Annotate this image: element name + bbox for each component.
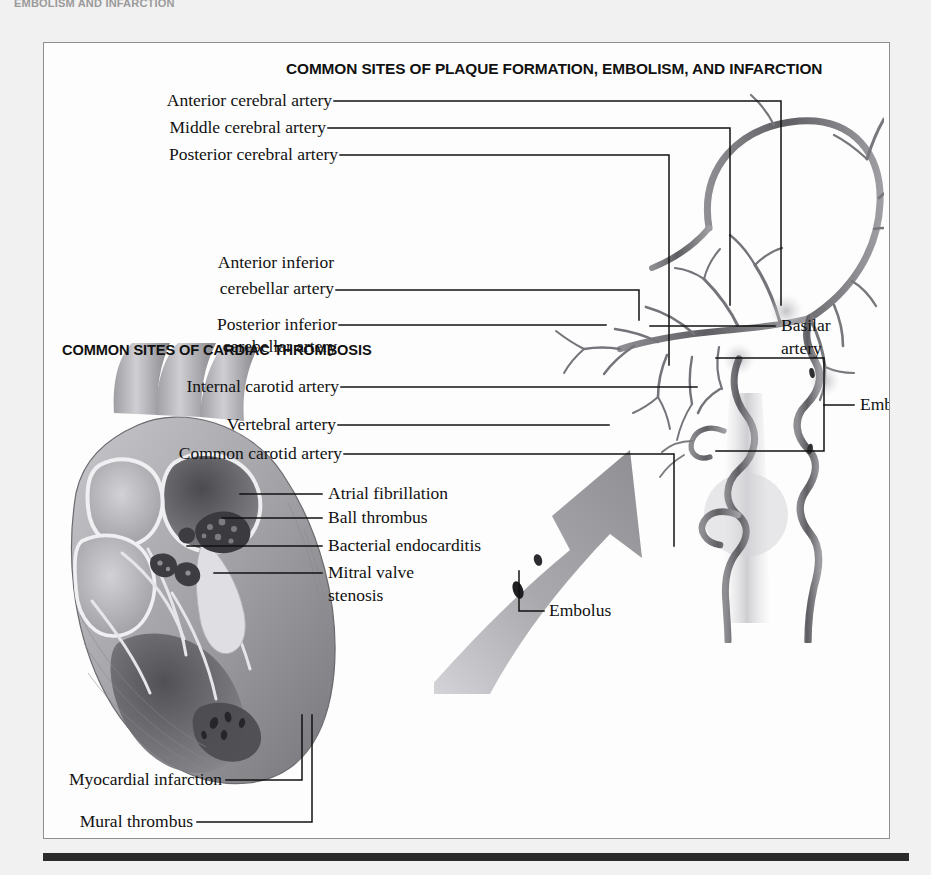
- label-anterior-inferior-cerebellar-line2: cerebellar artery: [104, 279, 334, 298]
- label-anterior-cerebral-artery: Anterior cerebral artery: [74, 91, 332, 110]
- label-mural-thrombus: Mural thrombus: [44, 812, 193, 831]
- label-atrial-fibrillation: Atrial fibrillation: [328, 484, 448, 503]
- label-vertebral-artery: Vertebral artery: [104, 415, 336, 434]
- label-mitral-valve-line1: Mitral valve: [328, 563, 414, 582]
- label-ball-thrombus: Ball thrombus: [328, 508, 428, 527]
- label-myocardial-infarction: Myocardial infarction: [44, 770, 222, 789]
- leader-aica: [336, 290, 639, 320]
- figure-frame: COMMON SITES OF PLAQUE FORMATION, EMBOLI…: [43, 42, 890, 839]
- leader-posterior-cerebral: [340, 155, 669, 365]
- label-embolus: Embolus: [549, 601, 611, 620]
- label-mitral-valve-line2: stenosis: [328, 586, 383, 605]
- label-internal-carotid-artery: Internal carotid artery: [104, 377, 339, 396]
- label-anterior-inferior-cerebellar-line1: Anterior inferior: [104, 253, 334, 272]
- bottom-rule: [43, 853, 909, 861]
- figure-canvas: COMMON SITES OF PLAQUE FORMATION, EMBOLI…: [44, 43, 889, 838]
- running-head: EMBOLISM AND INFARCTION: [14, 0, 175, 7]
- label-middle-cerebral-artery: Middle cerebral artery: [74, 118, 326, 137]
- label-posterior-inferior-cerebellar-line1: Posterior inferior: [94, 315, 337, 334]
- label-posterior-inferior-cerebellar-line2: cerebellar artery: [94, 337, 337, 356]
- label-posterior-cerebral-artery: Posterior cerebral artery: [74, 145, 338, 164]
- label-basilar-artery-line2: artery: [781, 339, 822, 358]
- leader-embolus: [519, 571, 544, 611]
- label-basilar-artery-line1: Basilar: [781, 316, 831, 335]
- heading-plaque-formation: COMMON SITES OF PLAQUE FORMATION, EMBOLI…: [286, 60, 822, 78]
- leader-emboli-bracket: [716, 358, 824, 451]
- label-bacterial-endocarditis: Bacterial endocarditis: [328, 536, 481, 555]
- leader-anterior-cerebral: [334, 101, 781, 305]
- label-emboli: Emboli: [860, 395, 889, 414]
- label-common-carotid-artery: Common carotid artery: [84, 444, 342, 463]
- leader-myocardial-infarction: [226, 715, 302, 780]
- figure-page: EMBOLISM AND INFARCTION: [0, 0, 931, 875]
